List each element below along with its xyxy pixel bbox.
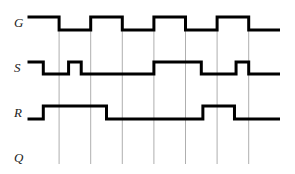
- timing-diagram-canvas: G S R Q: [0, 0, 295, 174]
- timing-diagram: G S R Q: [0, 0, 295, 174]
- waveform-s: [28, 62, 281, 74]
- signal-label-r: R: [13, 105, 22, 120]
- waveform-g: [28, 17, 281, 30]
- signal-label-g: G: [14, 15, 24, 30]
- signal-label-s: S: [14, 60, 21, 75]
- signal-label-q: Q: [14, 150, 24, 165]
